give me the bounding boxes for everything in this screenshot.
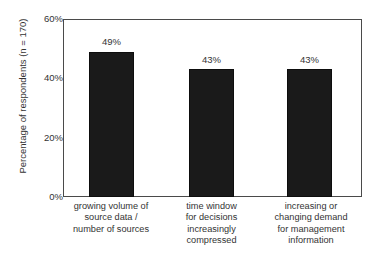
bar-value-1: 49% [75,36,148,47]
x-label-1-line-1: growing volume of [51,201,171,212]
x-label-3-line-2: changing demand [251,212,371,223]
x-label-1-line-3: number of sources [51,224,171,235]
bar-value-3: 43% [273,54,346,65]
bar-chart: Percentage of respondents (n = 170) 60% … [0,0,384,272]
y-tick-label-20: 20% [29,133,63,143]
x-label-3-line-3: for management [251,224,371,235]
bar-value-2: 43% [175,54,248,65]
bar-time-window [189,69,234,197]
bar-slot-1: 49% [89,19,134,197]
x-label-growing-volume: growing volume of source data / number o… [51,201,171,235]
bar-slot-3: 43% [287,19,332,197]
y-tick-label-40: 40% [29,73,63,83]
x-axis-category-labels: growing volume of source data / number o… [63,201,362,263]
y-tick-label-60: 60% [29,14,63,24]
x-label-1-line-2: source data / [51,212,171,223]
x-label-increasing-demand: increasing or changing demand for manage… [251,201,371,247]
x-label-3-line-4: information [251,235,371,246]
bar-increasing-demand [287,69,332,197]
bars-layer: 49% 43% 43% [63,19,362,197]
y-axis-tick-labels: 60% 40% 20% 0% [0,19,63,197]
x-label-3-line-1: increasing or [251,201,371,212]
bar-growing-volume [89,52,134,197]
bar-slot-2: 43% [189,19,234,197]
